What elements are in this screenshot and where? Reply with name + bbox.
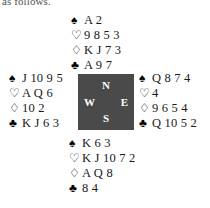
spade-icon: ♠ [139,71,152,86]
compass-north-label: N [102,80,110,91]
bridge-hand-diagram: as follows. ♠ A 2 ♡ 9 8 5 3 ♢ K J 7 3 ♣ … [0,0,210,208]
hand-south-hearts: K J 10 7 2 [82,151,135,166]
compass-east-label: E [121,97,128,108]
hand-south-clubs: 8 4 [82,181,98,196]
hand-west: ♠ J 10 9 5 ♡ A Q 6 ♢ 10 2 ♣ K J 6 3 [9,71,63,131]
hand-south-diamonds: A Q 8 [82,166,113,181]
hand-east-diamonds-row: ♢ 9 6 5 4 [139,101,197,116]
diamond-icon: ♢ [69,166,82,181]
hand-north-hearts-row: ♡ 9 8 5 3 [71,28,121,43]
hand-east-spades: Q 8 7 4 [152,71,191,86]
hand-east-clubs-row: ♣ Q 10 5 2 [139,116,197,131]
hand-east: ♠ Q 8 7 4 ♡ 4 ♢ 9 6 5 4 ♣ Q 10 5 2 [139,71,197,131]
hand-west-clubs-row: ♣ K J 6 3 [9,116,63,131]
hand-south-spades: K 6 3 [82,136,111,151]
club-icon: ♣ [139,116,152,131]
heart-icon: ♡ [69,151,82,166]
hand-east-diamonds: 9 6 5 4 [152,101,188,116]
hand-east-hearts-row: ♡ 4 [139,86,197,101]
hand-south-hearts-row: ♡ K J 10 7 2 [69,151,135,166]
heart-icon: ♡ [139,86,152,101]
hand-north-spades: A 2 [84,13,102,28]
hand-north-clubs: A 9 7 [84,58,112,73]
diamond-icon: ♢ [9,101,22,116]
compass-box: N W E S [78,74,134,130]
hand-west-diamonds: 10 2 [22,101,45,116]
hand-north-diamonds-row: ♢ K J 7 3 [71,43,121,58]
hand-north: ♠ A 2 ♡ 9 8 5 3 ♢ K J 7 3 ♣ A 9 7 [71,13,121,73]
hand-south-diamonds-row: ♢ A Q 8 [69,166,135,181]
hand-north-clubs-row: ♣ A 9 7 [71,58,121,73]
heart-icon: ♡ [9,86,22,101]
club-icon: ♣ [69,181,82,196]
compass-south-label: S [103,113,109,124]
hand-east-clubs: Q 10 5 2 [152,116,197,131]
heart-icon: ♡ [71,28,84,43]
diamond-icon: ♢ [139,101,152,116]
intro-text: as follows. [2,0,51,7]
hand-south: ♠ K 6 3 ♡ K J 10 7 2 ♢ A Q 8 ♣ 8 4 [69,136,135,196]
spade-icon: ♠ [71,13,84,28]
hand-east-spades-row: ♠ Q 8 7 4 [139,71,197,86]
hand-west-diamonds-row: ♢ 10 2 [9,101,63,116]
hand-north-diamonds: K J 7 3 [84,43,121,58]
club-icon: ♣ [71,58,84,73]
spade-icon: ♠ [9,71,22,86]
hand-west-clubs: K J 6 3 [22,116,59,131]
hand-south-clubs-row: ♣ 8 4 [69,181,135,196]
hand-south-spades-row: ♠ K 6 3 [69,136,135,151]
hand-west-hearts-row: ♡ A Q 6 [9,86,63,101]
diamond-icon: ♢ [71,43,84,58]
club-icon: ♣ [9,116,22,131]
hand-west-spades: J 10 9 5 [22,71,63,86]
hand-north-hearts: 9 8 5 3 [84,28,120,43]
compass-west-label: W [84,97,95,108]
hand-east-hearts: 4 [152,86,158,101]
hand-west-spades-row: ♠ J 10 9 5 [9,71,63,86]
hand-north-spades-row: ♠ A 2 [71,13,121,28]
hand-west-hearts: A Q 6 [22,86,53,101]
spade-icon: ♠ [69,136,82,151]
